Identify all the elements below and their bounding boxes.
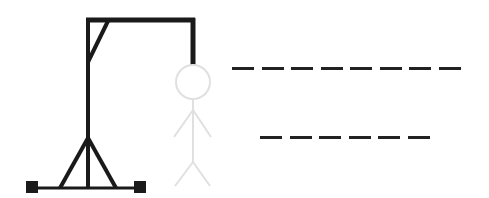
gallows-brace <box>88 21 108 62</box>
figure-head <box>176 65 210 99</box>
figure-right-leg <box>193 162 210 186</box>
letter-slot <box>319 136 341 139</box>
figure-right-arm <box>193 110 211 137</box>
base-right-foot <box>134 181 146 193</box>
letter-slot <box>349 136 371 139</box>
letter-slot <box>291 67 313 70</box>
letter-slot <box>378 136 400 139</box>
base-left-foot <box>26 181 38 193</box>
stick-figure <box>174 65 211 186</box>
letter-slot <box>409 67 431 70</box>
gallows-right-leg <box>88 138 116 188</box>
hangman-board <box>0 0 489 198</box>
hangman-game <box>0 0 489 198</box>
figure-left-arm <box>174 110 193 137</box>
figure-left-leg <box>175 162 193 186</box>
letter-slot <box>232 67 254 70</box>
word-2-slots <box>260 136 430 139</box>
gallows-left-leg <box>60 138 88 188</box>
letter-slot <box>321 67 343 70</box>
letter-slot <box>380 67 402 70</box>
letter-slot <box>262 67 284 70</box>
letter-slot <box>408 136 430 139</box>
letter-slot <box>260 136 282 139</box>
letter-slot <box>290 136 312 139</box>
gallows <box>32 18 195 188</box>
word-1-slots <box>232 67 461 70</box>
letter-slot <box>439 67 461 70</box>
letter-slot <box>350 67 372 70</box>
